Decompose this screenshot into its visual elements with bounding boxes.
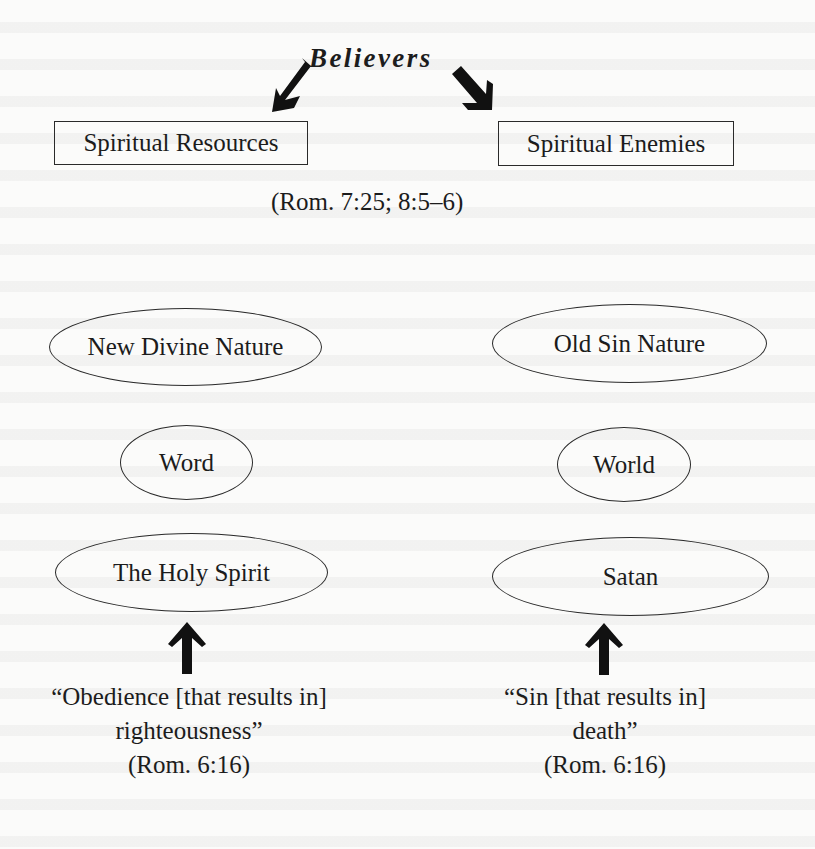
arrow-up-icon — [168, 622, 206, 674]
spiritual-enemies-label: Spiritual Enemies — [527, 130, 705, 158]
holy-spirit-label: The Holy Spirit — [113, 559, 270, 587]
right-caption-reference: (Rom. 6:16) — [490, 748, 720, 782]
right-caption: “Sin [that results in] death” (Rom. 6:16… — [490, 680, 720, 782]
spiritual-enemies-box: Spiritual Enemies — [498, 121, 734, 166]
left-caption-reference: (Rom. 6:16) — [30, 748, 348, 782]
arrow-down-left-icon — [272, 58, 311, 112]
header-reference: (Rom. 7:25; 8:5–6) — [271, 189, 463, 214]
left-caption-line1: “Obedience [that results in] — [30, 680, 348, 714]
new-divine-nature-label: New Divine Nature — [88, 333, 284, 361]
world-ellipse: World — [557, 427, 691, 502]
left-caption-line2: righteousness” — [30, 714, 348, 748]
spiritual-resources-box: Spiritual Resources — [54, 121, 308, 165]
arrow-down-right-icon — [452, 66, 493, 110]
right-caption-line1: “Sin [that results in] — [490, 680, 720, 714]
clipped-body-text-line — [0, 836, 815, 849]
new-divine-nature-ellipse: New Divine Nature — [49, 308, 322, 386]
world-label: World — [593, 451, 655, 479]
word-ellipse: Word — [120, 425, 253, 500]
left-caption: “Obedience [that results in] righteousne… — [30, 680, 348, 782]
holy-spirit-ellipse: The Holy Spirit — [55, 533, 328, 612]
satan-label: Satan — [603, 563, 659, 591]
old-sin-nature-ellipse: Old Sin Nature — [492, 304, 767, 383]
spiritual-resources-label: Spiritual Resources — [83, 129, 278, 157]
old-sin-nature-label: Old Sin Nature — [554, 330, 705, 358]
arrow-up-icon — [585, 623, 623, 675]
satan-ellipse: Satan — [492, 537, 769, 616]
word-label: Word — [159, 449, 214, 477]
right-caption-line2: death” — [490, 714, 720, 748]
diagram-title: Believers — [309, 43, 433, 74]
